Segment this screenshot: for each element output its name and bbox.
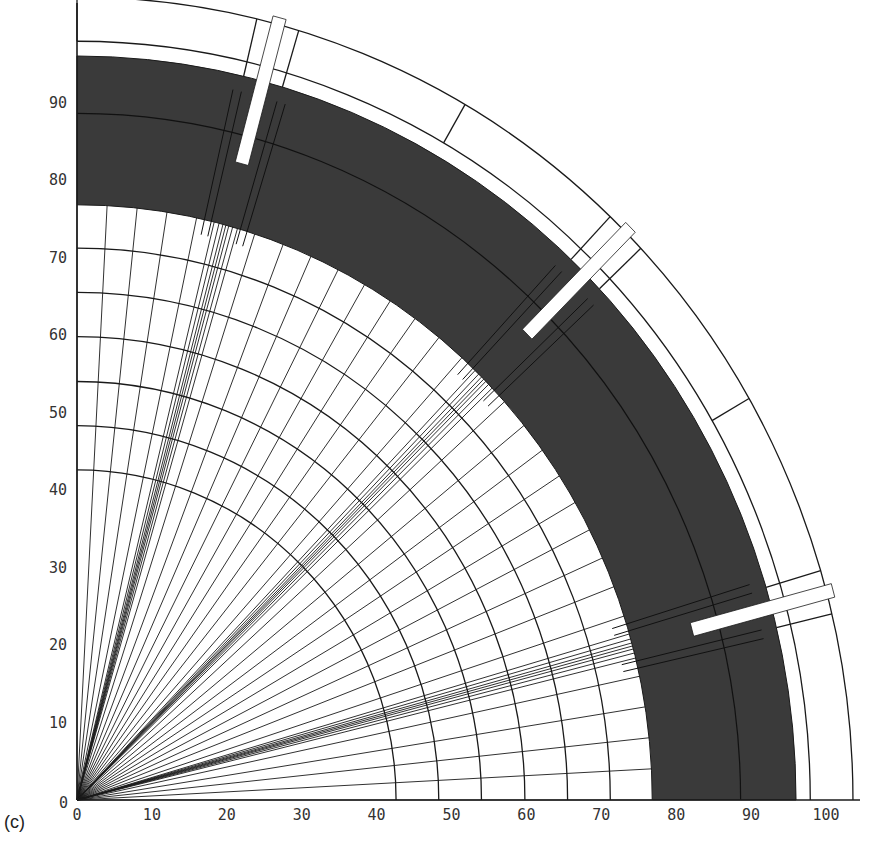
mesh-radial-line <box>77 616 624 800</box>
y-tick-label: 70 <box>49 249 67 267</box>
y-tick-label: 80 <box>49 171 67 189</box>
mesh-radial-line <box>77 218 197 800</box>
x-tick-label: 50 <box>442 806 460 824</box>
mesh-radial-line <box>77 769 651 800</box>
mesh-radial-line <box>77 388 492 800</box>
y-tick-label: 60 <box>49 326 67 344</box>
mesh-radial-line <box>77 653 634 800</box>
mesh-radial-line <box>77 234 255 800</box>
y-tick-label: 0 <box>59 794 68 812</box>
mesh-radial-line <box>77 643 632 800</box>
mesh-radial-line <box>77 502 575 800</box>
x-tick-label: 30 <box>293 806 311 824</box>
mesh-radial-line <box>77 738 649 800</box>
mesh-radial-line <box>77 639 631 800</box>
mesh-figure: 0102030405060708090100010203040506070809… <box>0 0 875 850</box>
mesh-radial-line <box>77 223 219 800</box>
mesh-radial-line <box>77 285 365 800</box>
mesh-radial-line <box>77 384 489 800</box>
mesh-radial-line <box>77 377 482 800</box>
x-tick-label: 0 <box>72 806 81 824</box>
y-tick-label: 30 <box>49 559 67 577</box>
y-tick-label: 50 <box>49 404 67 422</box>
mesh-radial-line <box>77 676 640 800</box>
x-tick-label: 60 <box>517 806 535 824</box>
mesh-radial-line <box>77 301 390 800</box>
x-tick-label: 70 <box>592 806 610 824</box>
slit-side-line <box>776 614 831 628</box>
x-tick-label: 20 <box>218 806 236 824</box>
mesh-radial-line <box>77 530 590 800</box>
mesh-radial-line <box>77 208 137 800</box>
mesh-radial-line <box>77 206 107 800</box>
slit-side-line <box>244 19 257 76</box>
x-tick-label: 80 <box>667 806 685 824</box>
y-tick-label: 40 <box>49 481 67 499</box>
mesh-radial-line <box>77 270 338 800</box>
mesh-radial-line <box>77 222 214 800</box>
mesh-radial-line <box>77 587 614 800</box>
y-tick-label: 20 <box>49 636 67 654</box>
x-tick-label: 40 <box>368 806 386 824</box>
mesh-radial-line <box>77 227 233 800</box>
mesh-radial-line <box>77 244 283 800</box>
y-tick-label: 10 <box>49 714 67 732</box>
x-tick-label: 10 <box>143 806 161 824</box>
slit-side-line <box>766 571 821 588</box>
mesh-radial-line <box>77 476 559 800</box>
mesh-radial-line <box>77 370 475 800</box>
outer-divider <box>712 399 749 421</box>
mesh-radial-line <box>77 381 486 800</box>
x-tick-label: 90 <box>742 806 760 824</box>
mesh-radial-line <box>77 658 636 800</box>
mesh-radial-line <box>77 226 229 800</box>
panel-label: (c) <box>4 812 25 833</box>
slit-side-line <box>282 31 298 87</box>
y-tick-label: 90 <box>49 94 67 112</box>
mesh-radial-line <box>77 379 484 800</box>
x-tick-label: 100 <box>812 806 839 824</box>
outer-divider <box>444 105 465 143</box>
